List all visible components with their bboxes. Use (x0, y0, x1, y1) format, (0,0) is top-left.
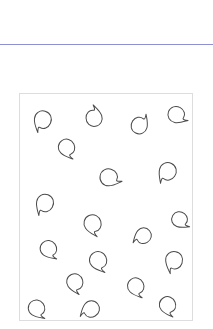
paisley-motif (86, 248, 112, 276)
paisley-motif-outline (98, 167, 124, 189)
motif-canvas (20, 94, 192, 320)
paisley-motif (169, 209, 192, 233)
paisley-motif-outline (169, 209, 192, 233)
paisley-motif-outline (165, 104, 191, 128)
paisley-motif (76, 298, 103, 320)
paisley-motif-outline (76, 298, 103, 320)
paisley-motif (85, 104, 103, 127)
paisley-motif (98, 167, 124, 189)
paisley-motif (125, 275, 150, 302)
paisley-motif-outline (86, 248, 112, 276)
paisley-motif (64, 272, 86, 298)
paisley-motif (153, 160, 179, 188)
paisley-motif (157, 294, 181, 320)
paisley-motif-outline (82, 212, 106, 239)
paisley-motif-outline (128, 110, 153, 137)
paisley-motif-outline (162, 250, 184, 276)
paisley-motif (129, 225, 154, 249)
motif-frame (19, 93, 193, 321)
paisley-motif-outline (55, 136, 80, 163)
paisley-motif (162, 250, 184, 276)
paisley-motif (82, 212, 106, 239)
paisley-motif (128, 110, 153, 137)
paisley-motif-outline (85, 104, 103, 127)
page-canvas (0, 0, 213, 329)
paisley-motif-outline (125, 275, 150, 302)
paisley-motif (55, 136, 80, 163)
paisley-motif-outline (25, 297, 51, 320)
paisley-motif-outline (153, 160, 179, 188)
paisley-motif-outline (64, 272, 86, 298)
paisley-motif (37, 237, 63, 264)
paisley-motif-outline (129, 225, 154, 249)
paisley-motif-outline (30, 108, 54, 135)
paisley-motif (31, 191, 56, 219)
paisley-motif-outline (157, 294, 181, 320)
paisley-motif-outline (31, 191, 56, 219)
paisley-motif (165, 104, 191, 128)
paisley-motif (25, 297, 51, 320)
paisley-motif (30, 108, 54, 135)
paisley-motif-outline (37, 237, 63, 264)
horizontal-rule (0, 44, 213, 45)
